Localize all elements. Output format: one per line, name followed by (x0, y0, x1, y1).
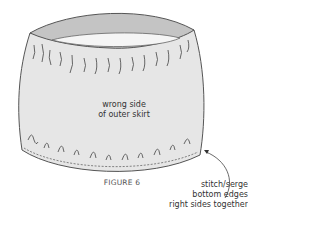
annotation-note: stitch/serge bottom edges right sides to… (148, 180, 248, 210)
center-label: wrong side of outer skirt (74, 100, 174, 120)
figure-caption: FIGURE 6 (92, 178, 152, 188)
annotation-line-1: stitch/serge (148, 180, 248, 190)
annotation-line-3: right sides together (148, 200, 248, 210)
center-label-line-1: wrong side (74, 100, 174, 110)
annotation-line-2: bottom edges (148, 190, 248, 200)
center-label-line-2: of outer skirt (74, 110, 174, 120)
